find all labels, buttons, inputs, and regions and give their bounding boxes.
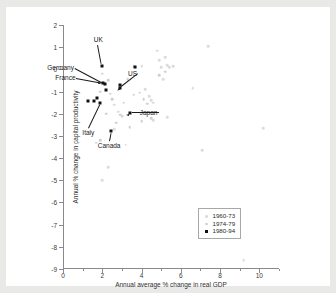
y-tick-label: -4 [51,155,57,162]
chart-legend[interactable]: 1960-73 1974-79 1980-94 [198,208,241,239]
data-point [140,65,143,68]
annotation-label-uk: UK [94,36,103,43]
legend-marker-1974-79-icon [203,220,209,228]
data-point [101,73,104,76]
data-point [107,79,110,82]
annotation-leader-line [98,45,102,64]
y-tick-label: -8 [51,243,57,250]
annotation-leader-line [132,112,159,113]
data-point [113,128,116,131]
y-tick-label: -2 [51,110,57,117]
data-point [96,97,99,100]
data-point [168,66,171,69]
data-point [162,78,165,81]
x-tick-label: 4 [140,272,144,279]
y-tick [59,92,63,93]
x-tick-minor [122,269,123,271]
data-point [99,139,102,142]
data-point [117,110,120,113]
legend-marker-1980-94-icon [203,227,209,235]
data-point [150,117,153,120]
y-tick [59,202,63,203]
data-point [113,104,116,107]
data-point [191,87,194,90]
data-point [262,127,265,130]
data-point [104,83,107,86]
y-tick [59,47,63,48]
annotation-label-france: France [55,74,75,81]
data-point [128,126,131,129]
data-point [86,99,89,102]
annotation-arrowhead-icon [126,114,129,116]
data-point [101,65,104,68]
data-point [152,101,155,104]
data-point [144,88,147,91]
data-point [111,98,114,101]
data-point [156,49,159,52]
data-point [93,100,96,103]
x-tick-label: 2 [100,272,104,279]
data-point [201,149,204,152]
y-tick-label: -9 [51,266,57,273]
y-tick-label: 1 [53,44,57,51]
annotation-leader-line [109,133,111,141]
data-point [138,91,141,94]
data-point [123,101,126,104]
figure-canvas: 210-1-2-3-4-5-6-7-8-9 0246810 UKGermanyF… [6,7,330,286]
data-point [207,45,210,48]
data-point [133,65,136,68]
annotation-label-canada: Canada [98,142,121,149]
data-point [99,90,102,93]
data-point [158,59,161,62]
data-point [242,259,245,262]
legend-label-1974-79: 1974-79 [212,220,235,228]
legend-item-1974-79[interactable]: 1974-79 [203,220,235,228]
data-point [105,112,108,115]
legend-label-1960-73: 1960-73 [212,212,235,220]
y-tick [59,158,63,159]
data-point [107,166,110,169]
y-tick [59,136,63,137]
y-tick [59,25,63,26]
y-tick [59,180,63,181]
data-point [125,143,128,146]
data-point [132,94,135,97]
data-point [115,121,118,124]
data-point [105,89,108,92]
scatter-plot-area: 210-1-2-3-4-5-6-7-8-9 0246810 UKGermanyF… [63,25,279,269]
data-point [148,95,151,98]
y-tick-label: -7 [51,221,57,228]
data-point [109,92,112,95]
data-point [172,65,175,68]
y-axis-title: Annual % change in capital productivity [72,90,79,203]
y-tick [59,114,63,115]
legend-item-1980-94[interactable]: 1980-94 [203,227,235,235]
legend-item-1960-73[interactable]: 1960-73 [203,212,235,220]
x-axis-line [63,268,279,269]
x-tick-label: 10 [256,272,263,279]
data-point [152,119,155,122]
x-tick-label: 8 [218,272,222,279]
data-point [160,66,163,69]
data-point [140,120,143,123]
y-axis-line [63,25,64,269]
y-tick-label: 2 [53,22,57,29]
x-tick-minor [83,269,84,271]
y-tick-label: -1 [51,88,57,95]
y-tick-label: -3 [51,132,57,139]
data-point [164,70,167,73]
x-tick-minor [279,269,280,271]
y-tick [59,225,63,226]
legend-label-1980-94: 1980-94 [212,227,235,235]
data-point [164,56,167,59]
x-axis-title: Annual average % change in real GDP [63,281,279,288]
data-point [146,102,149,105]
x-tick-minor [200,269,201,271]
y-tick-label: -5 [51,177,57,184]
annotation-label-germany: Germany [47,64,74,71]
data-point [158,74,161,77]
annotation-label-italy: Italy [82,129,94,136]
data-point [101,179,104,182]
data-point [119,114,122,117]
legend-marker-1960-73-icon [203,212,209,220]
